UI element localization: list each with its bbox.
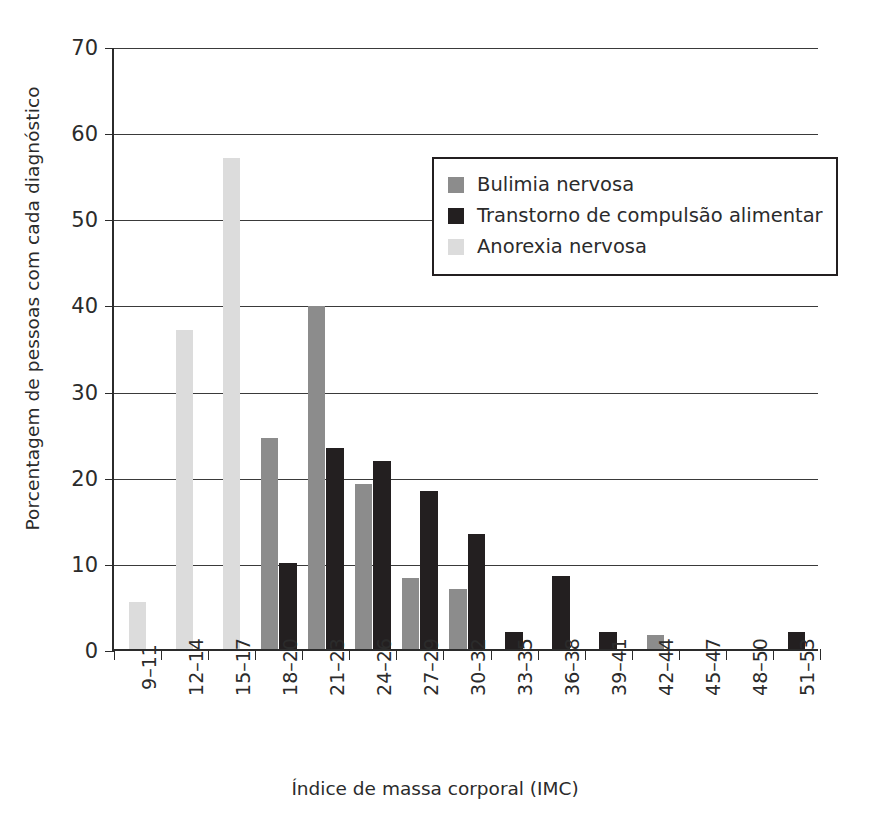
y-axis-tick <box>105 565 114 566</box>
x-axis-tick <box>820 649 821 660</box>
y-axis-tick-label: 60 <box>71 122 98 146</box>
x-axis-tick <box>396 649 397 660</box>
y-axis-tick <box>105 393 114 394</box>
gridline <box>114 479 818 480</box>
y-axis-tick-label: 50 <box>71 208 98 232</box>
y-axis-tick <box>105 48 114 49</box>
gridline <box>114 393 818 394</box>
y-axis-tick-label: 70 <box>71 36 98 60</box>
y-axis-tick-label: 20 <box>71 467 98 491</box>
x-axis-tick <box>114 649 115 660</box>
x-axis-tick <box>161 649 162 660</box>
bar <box>355 484 373 649</box>
x-axis-tick-label: 15–17 <box>232 638 254 696</box>
x-axis-tick-label: 36–38 <box>561 638 583 696</box>
x-axis-tick-label: 18–20 <box>279 638 301 696</box>
x-axis-title: Índice de massa corporal (IMC) <box>0 778 870 799</box>
x-axis-tick-label: 12–14 <box>185 638 207 696</box>
x-axis-tick-label: 30–32 <box>467 638 489 696</box>
bar <box>129 602 147 649</box>
x-axis-tick-label: 48–50 <box>749 638 771 696</box>
gridline <box>114 48 818 49</box>
y-axis-tick <box>105 220 114 221</box>
x-axis-tick-label: 39–41 <box>608 638 630 696</box>
gridline <box>114 134 818 135</box>
y-axis-tick <box>105 134 114 135</box>
legend-swatch-icon <box>448 177 464 193</box>
x-axis-tick <box>726 649 727 660</box>
x-axis-tick-label: 33–35 <box>514 638 536 696</box>
y-axis-tick <box>105 651 114 652</box>
bar <box>176 330 194 649</box>
y-axis-tick-label: 0 <box>85 639 98 663</box>
bar <box>402 578 420 649</box>
x-axis-tick <box>349 649 350 660</box>
bar <box>373 461 391 649</box>
y-axis-tick <box>105 306 114 307</box>
bar <box>420 491 438 650</box>
x-axis-tick <box>773 649 774 660</box>
gridline <box>114 565 818 566</box>
x-axis-tick <box>255 649 256 660</box>
x-axis-tick <box>679 649 680 660</box>
x-axis-tick <box>538 649 539 660</box>
x-axis-tick <box>491 649 492 660</box>
bar <box>449 589 467 649</box>
x-axis-tick-label: 21–23 <box>326 638 348 696</box>
gridline <box>114 306 818 307</box>
bar-chart: Porcentagem de pessoas com cada diagnóst… <box>0 0 870 820</box>
legend-item[interactable]: Bulimia nervosa <box>448 169 824 200</box>
x-axis-tick <box>632 649 633 660</box>
bar <box>308 306 326 649</box>
legend-item[interactable]: Transtorno de compulsão alimentar <box>448 200 824 231</box>
bar <box>279 563 297 649</box>
x-axis-tick <box>443 649 444 660</box>
x-axis-tick-label: 27–29 <box>420 638 442 696</box>
legend-item-label: Anorexia nervosa <box>477 237 647 257</box>
bar <box>223 158 241 649</box>
legend-swatch-icon <box>448 208 464 224</box>
legend: Bulimia nervosaTranstorno de compulsão a… <box>432 157 838 276</box>
y-axis-tick-label: 40 <box>71 294 98 318</box>
x-axis-tick <box>208 649 209 660</box>
x-axis-tick-label: 42–44 <box>655 638 677 696</box>
x-axis-tick-label: 24–26 <box>373 638 395 696</box>
y-axis-tick-label: 30 <box>71 381 98 405</box>
x-axis-tick <box>585 649 586 660</box>
bar <box>326 448 344 649</box>
x-axis-tick-label: 51–53 <box>796 638 818 696</box>
x-axis-tick-label: 9–11 <box>138 644 160 690</box>
legend-item-label: Transtorno de compulsão alimentar <box>477 206 823 226</box>
legend-item-label: Bulimia nervosa <box>477 175 634 195</box>
x-axis-tick-label: 45–47 <box>702 638 724 696</box>
bar <box>261 438 279 649</box>
x-axis-tick <box>302 649 303 660</box>
bar <box>468 534 486 649</box>
legend-swatch-icon <box>448 239 464 255</box>
plot-area: 010203040506070 9–1112–1415–1718–2021–23… <box>112 48 818 651</box>
y-axis-tick <box>105 479 114 480</box>
y-axis-title: Porcentagem de pessoas com cada diagnóst… <box>22 29 43 589</box>
y-axis-tick-label: 10 <box>71 553 98 577</box>
legend-item[interactable]: Anorexia nervosa <box>448 231 824 262</box>
